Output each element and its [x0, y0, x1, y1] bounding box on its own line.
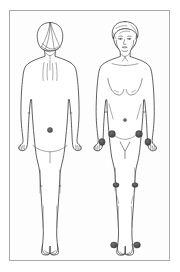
right-hand-lesion	[145, 139, 151, 146]
lower-back-marker	[47, 127, 52, 132]
right-hip-lesion	[136, 131, 143, 138]
body-map-illustration	[0, 0, 180, 272]
body-map-panel: Anatomical body map	[0, 0, 180, 272]
left-pupil	[120, 38, 121, 39]
posterior-figure	[19, 23, 82, 256]
left-foot-lesion	[111, 242, 118, 248]
right-pupil	[129, 38, 130, 39]
left-hand-lesion	[99, 139, 105, 146]
anterior-figure	[94, 22, 157, 256]
right-knee-lesion	[132, 183, 138, 188]
navel-marker	[123, 118, 126, 121]
left-knee-lesion	[113, 183, 119, 188]
right-foot-lesion	[134, 242, 141, 248]
left-hip-lesion	[109, 131, 116, 138]
